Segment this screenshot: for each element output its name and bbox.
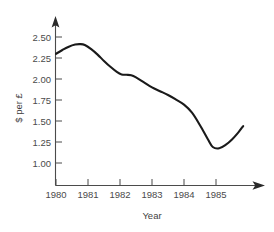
y-tick-label: 1.25 [33, 137, 52, 148]
y-tick-label: 1.50 [33, 116, 52, 127]
x-tick-label: 1983 [141, 189, 162, 200]
y-axis [52, 16, 60, 186]
x-tick-label: 1984 [173, 189, 194, 200]
y-axis-title: $ per £ [13, 92, 24, 122]
y-tick-marks [56, 37, 63, 163]
line-chart-plot: 2.50 2.25 2.00 1.75 1.50 1.25 1.00 1980 … [0, 0, 274, 232]
y-tick-labels: 2.50 2.25 2.00 1.75 1.50 1.25 1.00 [33, 32, 52, 169]
y-tick-label: 2.50 [33, 32, 52, 43]
x-tick-label: 1980 [45, 189, 66, 200]
x-tick-label: 1985 [205, 189, 226, 200]
x-axis-title: Year [142, 210, 161, 221]
y-tick-label: 1.00 [33, 158, 52, 169]
chart-container: 2.50 2.25 2.00 1.75 1.50 1.25 1.00 1980 … [0, 0, 274, 232]
x-tick-labels: 1980 1981 1982 1983 1984 1985 [45, 189, 226, 200]
y-tick-label: 2.00 [33, 74, 52, 85]
x-tick-label: 1981 [77, 189, 98, 200]
y-tick-label: 2.25 [33, 53, 52, 64]
data-series-line [56, 44, 243, 148]
y-tick-label: 1.75 [33, 95, 52, 106]
x-tick-label: 1982 [109, 189, 130, 200]
x-tick-marks [56, 179, 216, 186]
